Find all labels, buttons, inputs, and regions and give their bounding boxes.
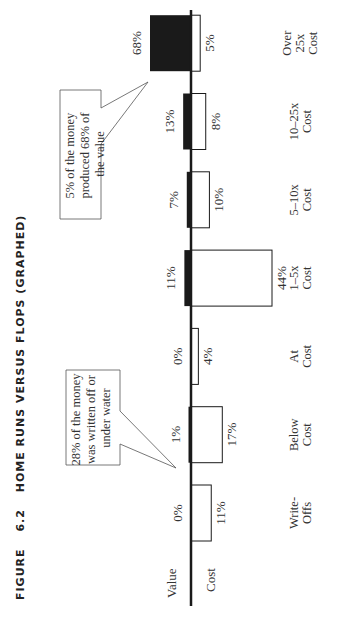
category-label-10-25x-cost: 10–25xCost bbox=[287, 102, 314, 140]
figure-title-text: HOME RUNS VERSUS FLOPS (GRAPHED) bbox=[14, 215, 27, 493]
cost-bar-5-10x-cost bbox=[191, 172, 209, 228]
value-bar-over-25x-cost bbox=[150, 15, 191, 71]
callout-bottom-line-1: 28% of the money bbox=[69, 373, 83, 466]
category-label-5-10x-cost: 5–10xCost bbox=[287, 183, 314, 215]
value-label-write-offs: 0% bbox=[170, 504, 185, 522]
category-label-1-5x-cost: 1–5xCost bbox=[287, 265, 314, 291]
axis-cost-label: Cost bbox=[203, 568, 218, 592]
cost-bar-10-25x-cost bbox=[191, 94, 206, 150]
callout-bottom: 28% of the money was written off or unde… bbox=[66, 370, 176, 468]
callout-bottom-line-3: under water bbox=[99, 387, 113, 447]
cost-label-at-cost: 4% bbox=[200, 348, 215, 366]
cost-label-5-10x-cost: 10% bbox=[211, 188, 226, 212]
cost-label-over-25x-cost: 5% bbox=[202, 34, 217, 52]
callout-bottom-line-2: was written off or bbox=[84, 374, 98, 464]
callout-top-line-2: produced 68% of bbox=[78, 112, 92, 199]
cost-bar-over-25x-cost bbox=[191, 15, 200, 71]
value-label-over-25x-cost: 68% bbox=[129, 31, 144, 55]
category-label-below-cost: BelowCost bbox=[287, 418, 314, 451]
figure-title: FIGURE 6.2 HOME RUNS VERSUS FLOPS (GRAPH… bbox=[14, 215, 27, 600]
callout-top-line-3: the value bbox=[93, 131, 107, 177]
svg-text:FIGURE 6.2 HOME RU: FIGURE 6.2 HOME RUNS VERSUS FLOPS (GRAPH… bbox=[14, 215, 27, 600]
figure-number: 6.2 bbox=[14, 509, 27, 532]
cost-bar-1-5x-cost bbox=[191, 250, 272, 306]
value-label-10-25x-cost: 13% bbox=[162, 109, 177, 133]
callout-top-line-1: 5% of the money bbox=[63, 112, 77, 198]
cost-bar-write-offs bbox=[191, 485, 211, 541]
category-label-at-cost: AtCost bbox=[287, 344, 314, 367]
cost-label-write-offs: 11% bbox=[213, 501, 228, 525]
cost-bar-below-cost bbox=[191, 407, 222, 463]
callout-top: 5% of the money produced 68% of the valu… bbox=[60, 82, 148, 219]
chart-canvas: FIGURE 6.2 HOME RUNS VERSUS FLOPS (GRAPH… bbox=[0, 0, 358, 633]
value-label-5-10x-cost: 7% bbox=[166, 191, 181, 209]
value-label-below-cost: 1% bbox=[168, 426, 183, 444]
value-label-1-5x-cost: 11% bbox=[163, 266, 178, 290]
cost-label-below-cost: 17% bbox=[224, 423, 239, 447]
cost-label-10-25x-cost: 8% bbox=[208, 113, 223, 131]
category-label-over-25x-cost: Over25xCost bbox=[280, 30, 320, 56]
axis-value-label: Value bbox=[164, 568, 179, 598]
value-label-at-cost: 0% bbox=[170, 348, 185, 366]
category-label-write-offs: Write-Offs bbox=[287, 497, 314, 529]
figure-label: FIGURE bbox=[14, 548, 27, 600]
